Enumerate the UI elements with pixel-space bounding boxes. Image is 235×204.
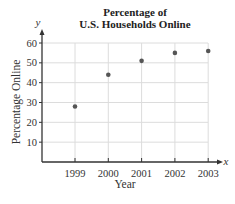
tick-labels: 10203040506019992000200120022003 bbox=[27, 38, 219, 180]
y-axis-arrow-icon bbox=[40, 29, 45, 35]
data-point bbox=[73, 104, 78, 109]
y-tick-label: 30 bbox=[27, 97, 38, 108]
x-tick-label: 1999 bbox=[65, 168, 86, 179]
data-point bbox=[173, 51, 178, 56]
y-tick-label: 40 bbox=[27, 77, 38, 88]
x-axis-label: Year bbox=[114, 178, 135, 190]
x-variable-label: x bbox=[223, 155, 229, 167]
y-tick-label: 20 bbox=[27, 117, 38, 128]
scatter-plot: 10203040506019992000200120022003 Percent… bbox=[0, 0, 235, 204]
y-variable-label: y bbox=[35, 16, 41, 28]
gridlines bbox=[42, 43, 208, 162]
y-tick-label: 60 bbox=[27, 38, 38, 49]
x-tick-label: 2002 bbox=[164, 168, 185, 179]
y-axis-label: Percentage Online bbox=[10, 60, 23, 145]
data-point bbox=[106, 72, 111, 77]
data-point bbox=[139, 59, 144, 64]
axes bbox=[39, 29, 223, 165]
y-tick-label: 50 bbox=[27, 57, 38, 68]
x-axis-arrow-icon bbox=[217, 160, 223, 165]
x-tick-label: 2003 bbox=[198, 168, 219, 179]
data-point bbox=[206, 49, 211, 54]
y-tick-label: 10 bbox=[27, 137, 38, 148]
